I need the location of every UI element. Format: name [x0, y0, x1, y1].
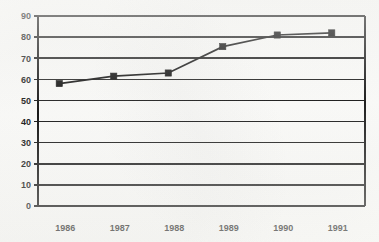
data-point-1991: [329, 30, 335, 36]
y-tick-label-group: 0102030405060708090: [21, 11, 31, 211]
x-tick-label-1990: 1990: [273, 223, 293, 233]
data-point-1989: [220, 44, 226, 50]
gridline-group: [38, 16, 365, 185]
x-tick-label-1989: 1989: [219, 223, 239, 233]
plot-frame: [38, 16, 365, 206]
y-tick-label: 10: [21, 180, 31, 190]
x-tick-label-1988: 1988: [164, 223, 184, 233]
y-tick-label: 50: [21, 96, 31, 106]
x-tick-label-1987: 1987: [110, 223, 130, 233]
y-tick-label: 20: [21, 159, 31, 169]
x-tick-label-1991: 1991: [328, 223, 348, 233]
data-point-1990: [274, 32, 280, 38]
y-tick-label: 60: [21, 75, 31, 85]
y-tick-label: 40: [21, 117, 31, 127]
y-tick-label: 90: [21, 11, 31, 21]
data-point-1987: [111, 73, 117, 79]
y-tick-label: 0: [26, 201, 31, 211]
y-tick-label: 70: [21, 54, 31, 64]
y-tick-label: 80: [21, 32, 31, 42]
line-chart: 0102030405060708090 19861987198819891990…: [0, 0, 379, 242]
y-tick-label: 30: [21, 138, 31, 148]
data-point-1986: [56, 80, 62, 86]
x-tick-label-1986: 1986: [55, 223, 75, 233]
x-tick-label-group: 198619871988198919901991: [55, 223, 348, 233]
chart-canvas: 0102030405060708090 19861987198819891990…: [0, 0, 379, 242]
data-point-1988: [165, 70, 171, 76]
